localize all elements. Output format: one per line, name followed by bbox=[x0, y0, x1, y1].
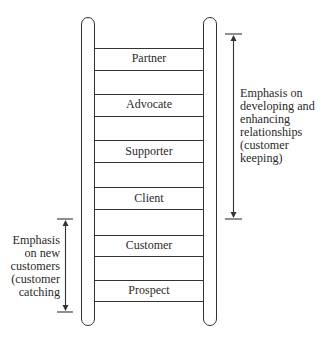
rung-label-partner: Partner bbox=[95, 51, 203, 65]
ladder-of-loyalty-diagram: Partner Advocate Supporter Client Custom… bbox=[0, 0, 325, 339]
rung-line bbox=[95, 162, 203, 163]
rung-label-client: Client bbox=[95, 191, 203, 205]
rung-line bbox=[95, 301, 203, 302]
rung-line bbox=[95, 280, 203, 281]
right-rail bbox=[203, 17, 217, 326]
note-line: catching bbox=[0, 286, 60, 299]
rung-line bbox=[95, 256, 203, 257]
customer-keeping-note: Emphasis on developing and enhancing rel… bbox=[240, 87, 315, 165]
rung-line bbox=[95, 70, 203, 71]
rung-line bbox=[95, 116, 203, 117]
note-line: keeping) bbox=[240, 152, 315, 165]
rung-label-supporter: Supporter bbox=[95, 144, 203, 158]
rung-line bbox=[95, 140, 203, 141]
rung-line bbox=[95, 187, 203, 188]
rung-label-advocate: Advocate bbox=[95, 97, 203, 111]
left-rail bbox=[81, 17, 95, 326]
rung-label-customer: Customer bbox=[95, 238, 203, 252]
rung-line bbox=[95, 48, 203, 49]
customer-catching-note: Emphasis on new customers (customer catc… bbox=[0, 234, 60, 299]
rung-line bbox=[95, 94, 203, 95]
rung-line bbox=[95, 235, 203, 236]
rung-line bbox=[95, 209, 203, 210]
rung-label-prospect: Prospect bbox=[95, 283, 203, 297]
